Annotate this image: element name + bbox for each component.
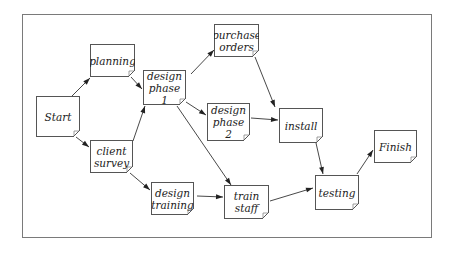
edge-client-survey-to-design-training (130, 173, 150, 190)
edge-purchase-orders-to-install (255, 57, 275, 107)
folded-corner-icon (352, 203, 359, 210)
edge-start-to-planning (72, 78, 90, 96)
node-label: purchase orders (209, 29, 264, 53)
folded-corner-icon (179, 98, 186, 105)
node-label: testing (316, 187, 359, 199)
folded-corner-icon (316, 136, 323, 143)
edge-design-phase-1-to-design-phase-2 (186, 102, 206, 115)
edge-design-phase-2-to-install (251, 118, 278, 120)
edge-design-training-to-train-staff (197, 196, 223, 197)
folded-corner-icon (243, 134, 250, 141)
node-label: client survey (91, 145, 132, 169)
edge-testing-to-finish (357, 150, 373, 174)
node-label: planning (86, 55, 139, 67)
node-label: design training (148, 187, 196, 211)
edge-client-survey-to-design-phase-1 (133, 106, 145, 141)
edge-planning-to-design-phase-1 (131, 77, 142, 89)
node-label: Finish (376, 141, 415, 153)
folded-corner-icon (262, 212, 269, 219)
node-label: train staff (225, 190, 268, 214)
folded-corner-icon (410, 156, 417, 163)
edge-install-to-testing (316, 143, 323, 174)
edge-start-to-client-survey (76, 137, 89, 147)
node-label: install (282, 120, 321, 132)
folded-corner-icon (187, 208, 194, 215)
folded-corner-icon (252, 50, 259, 57)
folded-corner-icon (128, 70, 135, 77)
edge-train-staff-to-testing (270, 188, 313, 201)
node-label: Start (42, 111, 75, 123)
folded-corner-icon (126, 166, 133, 173)
edge-design-phase-1-to-purchase-orders (191, 50, 214, 74)
folded-corner-icon (73, 130, 80, 137)
